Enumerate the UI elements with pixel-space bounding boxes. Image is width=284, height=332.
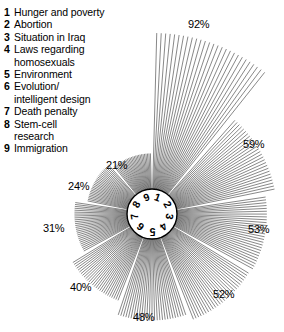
- value-label: 92%: [188, 18, 209, 30]
- value-label: 40%: [70, 281, 91, 293]
- ray-sector-2: [168, 120, 235, 196]
- value-label: 21%: [106, 159, 127, 171]
- value-label: 59%: [243, 138, 264, 150]
- ray-sector-4: [169, 231, 231, 295]
- value-label: 52%: [213, 288, 234, 300]
- ray-sector-2: [168, 122, 237, 196]
- value-label: 31%: [43, 222, 64, 234]
- ray-sector-1: [163, 53, 235, 193]
- value-label: 48%: [133, 311, 154, 323]
- radial-ray-chart: [0, 0, 284, 332]
- rays-group: [73, 33, 275, 320]
- ray-sector-2: [172, 144, 256, 201]
- value-label: 24%: [68, 180, 89, 192]
- rose-svg: [0, 0, 284, 332]
- ray-sector-2: [170, 131, 246, 198]
- chart-root: 1Hunger and poverty2Abortion3Situation i…: [0, 0, 284, 332]
- value-label: 53%: [248, 223, 269, 235]
- ray-sector-1: [156, 35, 180, 190]
- ray-sector-1: [156, 36, 183, 191]
- hub-digit-5: 5: [148, 226, 157, 237]
